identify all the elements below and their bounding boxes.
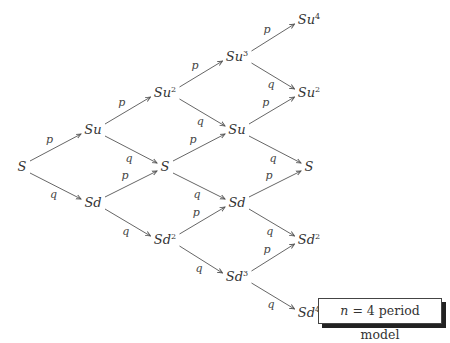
- prob-label-up: p: [118, 96, 125, 109]
- tree-node: Su4: [298, 12, 320, 27]
- tree-node: Sd: [228, 195, 245, 210]
- edge-up: [249, 171, 301, 197]
- tree-node: Sd: [84, 195, 101, 210]
- prob-label-down: q: [267, 298, 274, 311]
- tree-node: Su: [84, 122, 101, 137]
- tree-node: Su2: [298, 85, 320, 100]
- prob-label-up: p: [263, 243, 270, 256]
- prob-label-down: q: [267, 78, 274, 91]
- edge-up: [105, 97, 151, 124]
- tree-node: Su3: [226, 49, 248, 64]
- period-model-caption: n = 4 period model: [318, 298, 442, 324]
- tree-node: Sd4: [298, 305, 320, 320]
- prob-label-up: p: [193, 206, 200, 219]
- prob-label-down: q: [125, 152, 132, 165]
- tree-node: Su2: [154, 85, 176, 100]
- tree-node: S: [161, 159, 170, 174]
- prob-label-down: q: [193, 188, 200, 201]
- edge-up: [252, 24, 295, 51]
- tree-node: Sd2: [154, 232, 176, 247]
- edge-up: [180, 207, 226, 234]
- prob-label-up: p: [189, 133, 196, 146]
- prob-label-down: q: [269, 152, 276, 165]
- prob-label-down: q: [50, 188, 57, 201]
- prob-label-down: q: [122, 225, 129, 238]
- prob-label-up: p: [46, 133, 53, 146]
- caption-text: = 4 period model: [348, 303, 419, 342]
- prob-label-up: p: [121, 169, 128, 182]
- prob-label-down: q: [266, 225, 273, 238]
- edge-up: [249, 97, 295, 124]
- tree-node: Sd3: [226, 269, 248, 284]
- edge-up: [252, 244, 295, 271]
- edge-up: [105, 171, 157, 197]
- tree-node: S: [305, 159, 314, 174]
- tree-node: Su: [228, 122, 245, 137]
- edge-up: [173, 134, 225, 161]
- prob-label-up: p: [265, 169, 272, 182]
- prob-label-up: p: [262, 96, 269, 109]
- prob-label-up: p: [263, 23, 270, 36]
- prob-label-up: p: [191, 59, 198, 72]
- tree-node: S: [18, 159, 27, 174]
- prob-label-down: q: [195, 262, 202, 275]
- edge-up: [180, 61, 223, 87]
- prob-label-down: q: [197, 115, 204, 128]
- edge-up: [30, 134, 81, 161]
- tree-node: Sd2: [298, 232, 320, 247]
